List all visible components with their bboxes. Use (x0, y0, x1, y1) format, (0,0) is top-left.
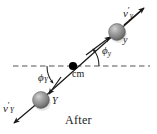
velocity-subscript: y (130, 11, 133, 20)
angle-label-phi-Y-capital: ϕY (38, 72, 48, 84)
sphere-Y-capital (33, 92, 50, 109)
velocity-label-v-y-prime: v′y (123, 6, 133, 20)
phi-symbol: ϕ (38, 71, 44, 83)
phi-subscript: y (108, 49, 111, 58)
after-collision-diagram: v′y v′Y ϕy ϕY y Y cm After (0, 0, 157, 134)
particle-label-Y-capital: Y (52, 96, 58, 106)
figure-caption: After (0, 113, 157, 128)
phi-symbol: ϕ (102, 44, 108, 56)
center-of-mass-label: cm (72, 69, 84, 79)
angle-label-phi-y: ϕy (102, 45, 111, 57)
particle-label-y: y (123, 35, 127, 45)
phi-subscript: Y (44, 76, 48, 85)
